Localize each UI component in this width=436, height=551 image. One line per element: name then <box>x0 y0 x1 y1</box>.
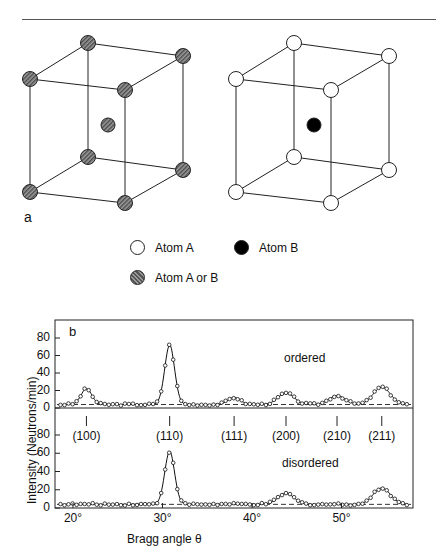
x-tick-label: 20° <box>64 512 82 524</box>
series-label-ordered: ordered <box>284 352 325 364</box>
legend-atom-a-or-b: Atom A or B <box>130 270 218 285</box>
cell-ordered <box>229 36 397 211</box>
y-tick-label: 40 <box>37 465 50 477</box>
y-tick-label: 80 <box>37 331 50 343</box>
reflection-label: (211) <box>368 430 395 442</box>
legend-atom-b: Atom B <box>234 240 298 255</box>
y-tick-label: 80 <box>37 428 50 440</box>
y-tick-label: 20 <box>37 483 50 495</box>
white-circle-icon <box>130 240 145 255</box>
y-tick-label: 0 <box>43 401 50 413</box>
cell-a-or-b <box>23 36 191 211</box>
x-tick-label: 50° <box>332 512 350 524</box>
x-tick-label: 30° <box>153 512 171 524</box>
y-tick-label: 40 <box>37 366 50 378</box>
diffraction-chart <box>55 320 413 508</box>
x-axis-title: Bragg angle θ <box>127 533 202 545</box>
legend-atom-a: Atom A <box>130 240 194 255</box>
series-label-disordered: disordered <box>282 457 339 469</box>
hatched-circle-icon <box>130 270 145 285</box>
black-circle-icon <box>234 240 249 255</box>
panel-b-label: b <box>69 325 76 338</box>
panel-a-label: a <box>24 210 32 224</box>
y-tick-label: 60 <box>37 349 50 361</box>
reflection-label: (111) <box>221 430 247 442</box>
x-tick-label: 40° <box>243 512 261 524</box>
reflection-label: (200) <box>272 430 300 442</box>
reflection-label: (110) <box>156 430 183 442</box>
reflection-label: (100) <box>72 430 100 442</box>
y-tick-label: 0 <box>43 501 50 513</box>
reflection-label: (210) <box>323 430 351 442</box>
y-tick-label: 60 <box>37 446 50 458</box>
y-tick-label: 20 <box>37 384 50 396</box>
